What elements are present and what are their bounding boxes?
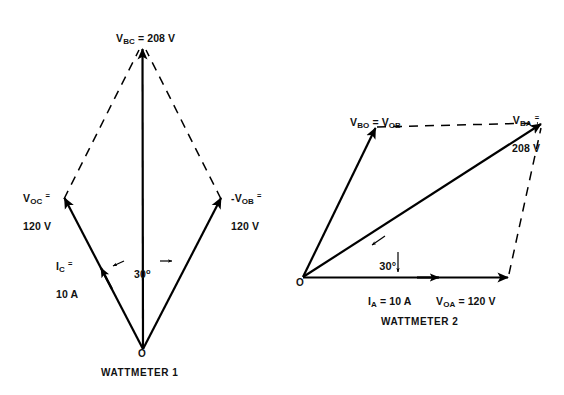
- construction-line-left: [64, 50, 139, 199]
- angle-value-1: 30: [134, 268, 146, 280]
- label-voc-magnitude: 120 V: [23, 220, 51, 232]
- caption-wattmeter-1: WATTMETER 1: [101, 367, 179, 378]
- label-ia: IA = 10 A: [362, 283, 411, 311]
- degree-symbol-2: °: [392, 260, 397, 272]
- label-vba-symbol: V: [513, 114, 520, 126]
- label-vbo: VBO = VOB: [344, 104, 401, 132]
- label-vbo-subscript: BO: [357, 121, 369, 130]
- label-neg-vob: -VOB = 120 V: [225, 178, 261, 232]
- angle-value-2: 30: [379, 260, 391, 272]
- angle-leader-upper: [372, 236, 385, 245]
- wattmeter-1-diagram: [64, 49, 221, 349]
- label-ia-value: = 10 A: [380, 295, 411, 307]
- label-vob-subscript: OB: [389, 121, 401, 130]
- label-neg-vob-equals: =: [257, 191, 261, 200]
- vector-neg-vob: [143, 198, 221, 349]
- label-ic-subscript: C: [59, 265, 65, 274]
- label-neg-vob-subscript: OB: [242, 197, 254, 206]
- construction-line-right: [146, 50, 221, 199]
- label-voc: VOC = 120 V: [17, 178, 51, 232]
- label-voa-value: = 120 V: [458, 295, 495, 307]
- phasor-diagram-figure: [0, 0, 564, 395]
- label-vbo-equals: =: [372, 116, 378, 128]
- degree-symbol-1: o: [146, 267, 151, 276]
- label-voa-subscript: OA: [443, 300, 455, 309]
- label-vob-symbol: V: [382, 116, 389, 128]
- label-vbc: VBC = 208 V: [110, 20, 175, 48]
- label-angle-wattmeter-1: 30o: [128, 254, 151, 280]
- label-vba-equals: =: [535, 113, 539, 122]
- label-voc-equals: =: [45, 191, 49, 200]
- angle-leader-left: [113, 261, 124, 266]
- label-vba-magnitude: 208 V: [512, 142, 540, 154]
- origin-label-wattmeter-1: O: [138, 348, 146, 359]
- vector-vbc: [143, 49, 144, 349]
- label-voa: VOA = 120 V: [430, 283, 496, 311]
- caption-wattmeter-2: WATTMETER 2: [381, 316, 459, 327]
- label-neg-vob-magnitude: 120 V: [231, 220, 259, 232]
- label-angle-wattmeter-2: 30°: [373, 248, 396, 272]
- label-vba: VBA = 208 V: [506, 100, 540, 154]
- label-ic: IC = 10 A: [50, 246, 78, 300]
- label-ic-magnitude: 10 A: [56, 288, 78, 300]
- label-neg-vob-symbol: -V: [231, 192, 242, 204]
- label-vbc-value: = 208 V: [138, 32, 175, 44]
- label-vba-subscript: BA: [520, 119, 532, 128]
- label-vbc-subscript: BC: [123, 37, 135, 46]
- vector-ic-arrowhead: [101, 268, 112, 289]
- label-ia-subscript: A: [371, 300, 377, 309]
- label-ic-equals: =: [68, 259, 72, 268]
- origin-label-wattmeter-2: O: [296, 277, 304, 288]
- label-voc-subscript: OC: [30, 197, 42, 206]
